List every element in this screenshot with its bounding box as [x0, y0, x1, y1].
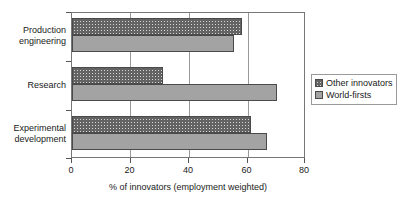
- category-label-line: Experimental: [0, 123, 66, 134]
- bar-production-engineering-world-firsts[interactable]: [72, 35, 234, 52]
- plot-area: [71, 12, 305, 158]
- ytick-1: [66, 61, 71, 62]
- legend-label-world-firsts: World-firsts: [326, 90, 371, 101]
- category-label-line: Production: [0, 25, 66, 36]
- category-label-line: Research: [0, 80, 66, 91]
- xtick-label-20: 20: [115, 165, 145, 175]
- category-label-production-engineering: Production engineering: [0, 25, 66, 47]
- x-axis-title: % of innovators (employment weighted): [71, 182, 305, 192]
- xtick-label-80: 80: [289, 165, 319, 175]
- category-label-line: development: [0, 134, 66, 145]
- ytick-2: [66, 110, 71, 111]
- legend-item-world-firsts[interactable]: World-firsts: [315, 89, 393, 101]
- xtick-80: [304, 158, 305, 163]
- legend-swatch-hatched-icon: [315, 79, 323, 87]
- bar-production-engineering-other-innovators[interactable]: [72, 18, 242, 35]
- bar-research-world-firsts[interactable]: [72, 84, 277, 101]
- xtick-label-40: 40: [173, 165, 203, 175]
- legend-swatch-solid-icon: [315, 91, 323, 99]
- xtick-60: [247, 158, 248, 163]
- bar-experimental-development-world-firsts[interactable]: [72, 133, 267, 150]
- bar-research-other-innovators[interactable]: [72, 67, 163, 84]
- legend-label-other-innovators: Other innovators: [326, 78, 393, 89]
- category-label-line: engineering: [0, 36, 66, 47]
- xtick-label-60: 60: [232, 165, 262, 175]
- xtick-label-0: 0: [56, 165, 86, 175]
- xtick-40: [188, 158, 189, 163]
- ytick-top: [66, 12, 71, 13]
- chart-legend: Other innovators World-firsts: [311, 74, 397, 105]
- category-label-experimental-development: Experimental development: [0, 123, 66, 145]
- bar-experimental-development-other-innovators[interactable]: [72, 116, 251, 133]
- bar-chart: Production engineering Research Experime…: [0, 0, 414, 207]
- category-label-research: Research: [0, 80, 66, 91]
- xtick-20: [130, 158, 131, 163]
- legend-item-other-innovators[interactable]: Other innovators: [315, 77, 393, 89]
- xtick-0: [71, 158, 72, 163]
